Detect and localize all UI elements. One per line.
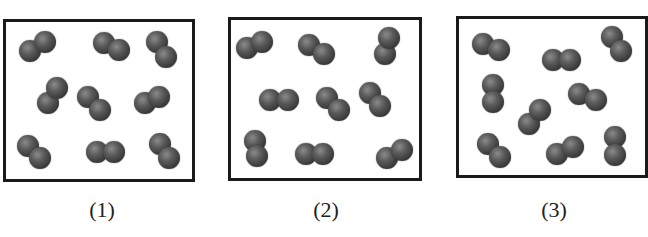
atom-icon [529,99,551,121]
atom-icon [488,39,510,61]
atom-icon [312,143,334,165]
atom-icon [34,31,56,53]
atom-icon [148,86,170,108]
panel-label-3: (3) [524,197,584,223]
atom-icon [46,77,68,99]
atom-icon [391,139,413,161]
atom-icon [246,145,268,167]
atom-icon [158,147,180,169]
atom-icon [585,89,607,111]
atom-icon [378,27,400,49]
atom-icon [277,89,299,111]
atom-icon [482,91,504,113]
atom-icon [610,40,632,62]
atom-icon [251,31,273,53]
atom-icon [489,146,511,168]
atom-icon [328,99,350,121]
atom-icon [604,144,626,166]
panel-label-2: (2) [296,197,356,223]
atom-icon [103,141,125,163]
atom-icon [89,99,111,121]
atom-icon [108,39,130,61]
panel-label-1: (1) [72,197,132,223]
atom-icon [29,147,51,169]
atom-icon [562,136,584,158]
atom-icon [313,43,335,65]
atom-icon [559,49,581,71]
atom-icon [369,95,391,117]
atom-icon [155,46,177,68]
